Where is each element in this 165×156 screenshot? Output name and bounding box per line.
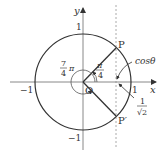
- point-P-prime-label: P′: [118, 115, 128, 126]
- pi4-den: 4: [98, 71, 103, 80]
- cos-theta-label: cosθ: [135, 56, 156, 66]
- seven-pi4-num: 7: [61, 59, 66, 68]
- sqrt2-den: √2: [137, 108, 147, 117]
- y-axis-label: y: [73, 5, 80, 16]
- tick-y-pos: 1: [76, 22, 82, 32]
- x-axis-label: x: [150, 84, 156, 95]
- unit-circle-diagram: y x O 1 −1 −1 1 P P′ π 4 7 4 π cosθ 1 √2: [0, 0, 165, 156]
- origin-label: O: [85, 85, 93, 96]
- tick-x-neg: −1: [20, 85, 33, 95]
- pi4-num: π: [96, 61, 103, 70]
- seven-pi4-den: 4: [61, 69, 66, 78]
- tick-y-neg: −1: [68, 133, 81, 143]
- seven-pi4-suffix: π: [68, 64, 75, 73]
- sqrt2-num: 1: [140, 97, 145, 106]
- tick-x-pos: 1: [132, 85, 138, 95]
- point-P-label: P: [118, 39, 125, 50]
